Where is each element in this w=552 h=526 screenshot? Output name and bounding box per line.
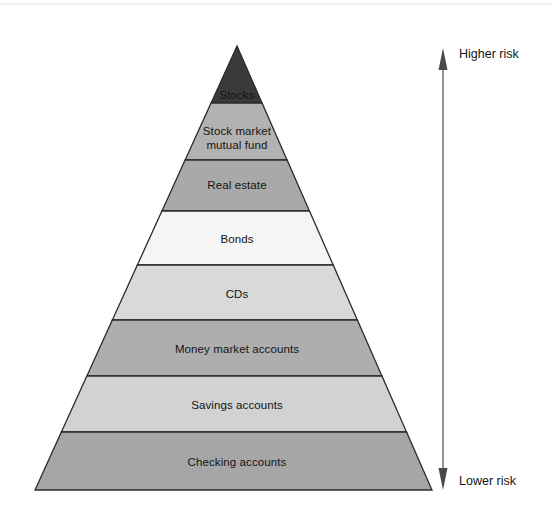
- pyramid-labels-layer: Higher risk Lower risk StocksStock marke…: [0, 0, 552, 526]
- pyramid-tier-label-6: Money market accounts: [0, 342, 474, 356]
- pyramid-tier-label-4: Bonds: [0, 232, 474, 246]
- axis-label-lower-risk: Lower risk: [459, 474, 516, 489]
- pyramid-tier-label-5: CDs: [0, 287, 474, 301]
- pyramid-tier-label-2: Stock market mutual fund: [0, 124, 474, 152]
- pyramid-tier-label-7: Savings accounts: [0, 398, 474, 412]
- pyramid-diagram-canvas: Higher risk Lower risk StocksStock marke…: [0, 0, 552, 526]
- axis-label-higher-risk: Higher risk: [459, 47, 519, 62]
- pyramid-tier-label-1: Stocks: [0, 88, 474, 102]
- pyramid-tier-label-8: Checking accounts: [0, 455, 474, 469]
- pyramid-tier-label-3: Real estate: [0, 178, 474, 192]
